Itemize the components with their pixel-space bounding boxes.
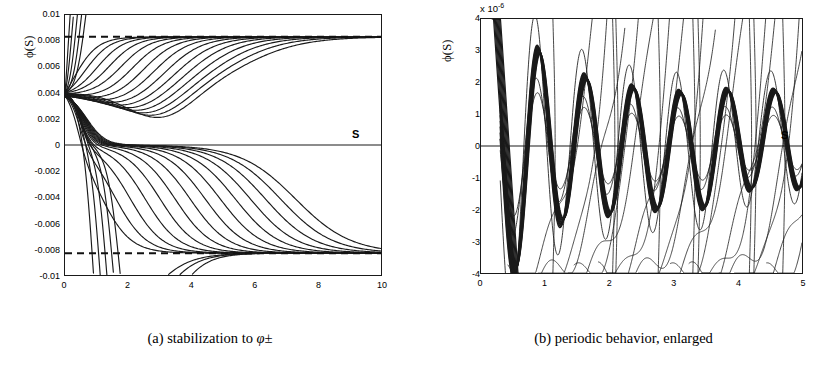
- panel-a-curves: [65, 15, 381, 275]
- x-tick: 0: [61, 280, 66, 290]
- y-tick: 0.002: [37, 114, 60, 124]
- caption-b-text: periodic behavior, enlarged: [555, 330, 713, 346]
- caption-b: (b) periodic behavior, enlarged: [420, 330, 827, 347]
- panel-b: ϕ(S) x 10-6 4 3 2 1 0 -1 -2 -3 -4 0 1 2 …: [420, 0, 827, 320]
- panel-b-y-ticks: 4 3 2 1 0 -1 -2 -3 -4: [420, 18, 480, 274]
- panel-a-plot-area: [64, 14, 382, 276]
- panel-a-y-ticks: 0.01 0.008 0.006 0.004 0.002 0 -0.002 -0…: [0, 14, 60, 276]
- figure-container: ϕ(S) 0.01 0.008 0.006 0.004 0.002 0 -0.0…: [0, 0, 827, 375]
- y-tick: -1: [472, 173, 480, 183]
- panel-b-exponent-label: x 10-6: [480, 2, 504, 14]
- panel-a-x-ticks: 0 2 4 6 8 10: [64, 280, 382, 294]
- caption-b-prefix: (b): [534, 330, 551, 346]
- y-tick: -0.004: [34, 192, 60, 202]
- panel-b-curves: [481, 19, 802, 273]
- y-tick: -0.01: [39, 271, 60, 281]
- caption-a-symbol: φ±: [257, 330, 273, 346]
- x-tick: 10: [377, 280, 387, 290]
- y-tick: 0.004: [37, 88, 60, 98]
- x-tick: 2: [125, 280, 130, 290]
- caption-a-text: stabilization to: [167, 330, 253, 346]
- panel-a-axis-annotation: S: [352, 128, 359, 140]
- caption-a-prefix: (a): [147, 330, 163, 346]
- panel-b-plot-area: [480, 18, 803, 274]
- y-tick: 0.01: [42, 9, 60, 19]
- exponent-power: -6: [498, 2, 504, 9]
- caption-a: (a) stabilization to φ±: [0, 330, 420, 347]
- y-tick: 0.008: [37, 35, 60, 45]
- y-tick: -3: [472, 237, 480, 247]
- y-tick: -0.008: [34, 245, 60, 255]
- x-tick: 1: [542, 278, 547, 288]
- panel-b-x-ticks: 0 1 2 3 4 5: [480, 278, 803, 292]
- y-tick: -0.002: [34, 166, 60, 176]
- panel-b-axis-annotation: S: [781, 129, 788, 141]
- y-tick: 0.006: [37, 61, 60, 71]
- panel-a: ϕ(S) 0.01 0.008 0.006 0.004 0.002 0 -0.0…: [0, 0, 420, 320]
- x-tick: 2: [607, 278, 612, 288]
- x-tick: 4: [736, 278, 741, 288]
- y-tick: -2: [472, 205, 480, 215]
- x-tick: 0: [477, 278, 482, 288]
- x-tick: 4: [189, 280, 194, 290]
- y-tick: 0: [55, 140, 60, 150]
- x-tick: 3: [671, 278, 676, 288]
- y-tick: -0.006: [34, 219, 60, 229]
- x-tick: 8: [316, 280, 321, 290]
- x-tick: 6: [252, 280, 257, 290]
- exponent-mantissa: x 10: [480, 3, 498, 14]
- x-tick: 5: [800, 278, 805, 288]
